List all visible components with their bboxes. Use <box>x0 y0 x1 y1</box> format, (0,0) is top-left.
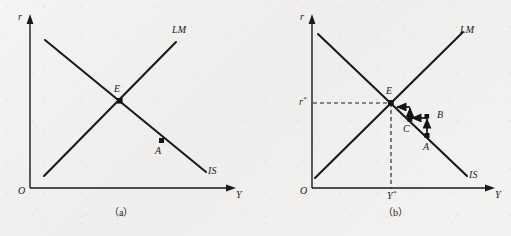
panel-b-graphic <box>255 0 511 236</box>
x-axis-tick-y-star: Y* <box>387 190 396 201</box>
point-label-a-a: A <box>155 146 161 156</box>
point-marker-a-b <box>425 133 430 138</box>
point-marker-e-b <box>388 100 394 106</box>
point-label-c-b: C <box>403 124 410 134</box>
panel-caption-b: （b） <box>383 208 408 218</box>
panel-caption-a: （a） <box>109 208 133 218</box>
is-curve-label-b: IS <box>469 170 478 180</box>
is-curve-a <box>45 40 206 172</box>
x-axis-label-a: Y <box>236 190 242 200</box>
lm-curve-label-b: LM <box>460 25 474 35</box>
point-marker-b-b <box>425 114 430 119</box>
panel-a: r Y O LM IS E A （a） <box>0 0 256 236</box>
y-tick-superscript: * <box>303 95 307 103</box>
figure-canvas: r Y O LM IS E A （a） <box>0 0 511 236</box>
x-tick-superscript: * <box>393 189 397 197</box>
x-axis-b <box>312 185 495 192</box>
point-marker-a-a <box>159 138 164 143</box>
x-axis-a <box>30 185 236 192</box>
origin-label-b: O <box>300 186 307 196</box>
point-label-a-b: A <box>423 142 429 152</box>
panel-b: r Y O LM IS E A B C r* Y* （b） <box>255 0 511 236</box>
y-axis-a <box>27 14 34 188</box>
point-label-b-b: B <box>437 110 443 120</box>
is-curve-label-a: IS <box>208 166 217 176</box>
y-axis-label-b: r <box>300 12 304 22</box>
point-label-e-a: E <box>114 84 120 94</box>
point-label-e-b: E <box>386 86 392 96</box>
panel-a-graphic <box>0 0 256 236</box>
lm-curve-label-a: LM <box>172 25 186 35</box>
x-axis-label-b: Y <box>495 190 501 200</box>
point-marker-e-a <box>117 98 123 104</box>
y-axis-label-a: r <box>18 12 22 22</box>
origin-label-a: O <box>18 186 25 196</box>
point-marker-c-b <box>408 117 413 122</box>
y-axis-tick-r-star: r* <box>299 96 307 107</box>
y-axis-b <box>309 14 316 188</box>
